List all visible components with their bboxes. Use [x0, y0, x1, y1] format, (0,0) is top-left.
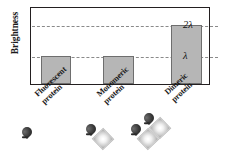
tick-label-lambda: λ	[183, 50, 209, 61]
tick-label-2-lambda: 2λ	[183, 19, 209, 30]
glyph-fluorescent-protein	[18, 123, 48, 149]
y-axis-title: Brightness	[8, 0, 22, 69]
glyph-dimeric-protein	[127, 112, 185, 156]
fluorophore-pin-icon	[20, 125, 34, 139]
brightness-bar-chart-figure: Brightness 2λ λ Fluorescent protein Mono…	[0, 0, 235, 156]
glyph-monomeric-protein	[81, 121, 121, 154]
